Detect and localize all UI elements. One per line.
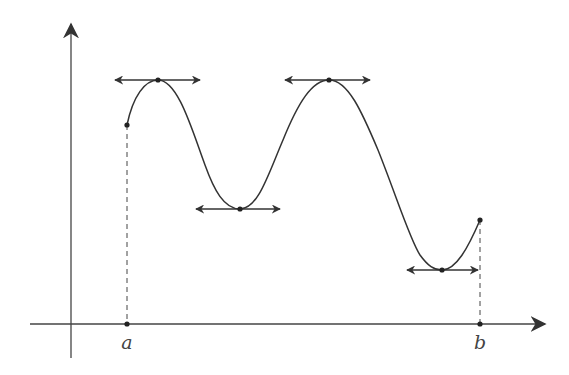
local-min-point-1 xyxy=(237,206,242,211)
endpoint-b-curve xyxy=(477,217,482,222)
local-max-point-1 xyxy=(155,77,160,82)
local-max-point-2 xyxy=(326,77,331,82)
function-curve xyxy=(127,80,480,270)
function-graph: a b xyxy=(0,0,569,375)
label-b: b xyxy=(474,331,486,353)
local-min-point-2 xyxy=(439,267,444,272)
axis-point-b xyxy=(477,321,482,326)
label-a: a xyxy=(121,331,132,353)
axis-point-a xyxy=(124,321,129,326)
endpoint-a-curve xyxy=(124,122,129,127)
